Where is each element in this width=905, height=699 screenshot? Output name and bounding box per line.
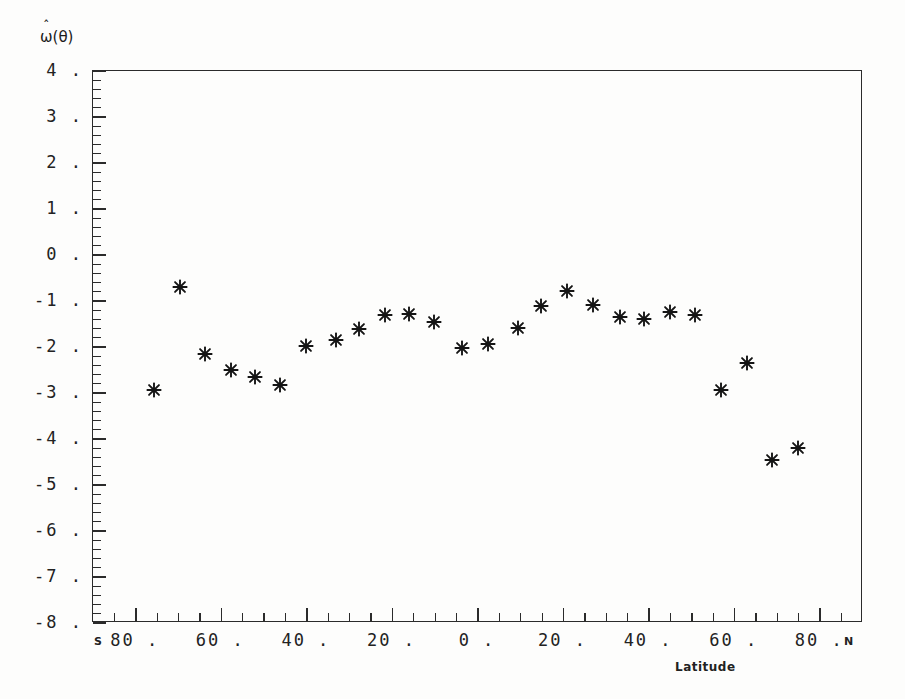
x-tick-minor bbox=[542, 613, 543, 621]
y-tick-minor bbox=[93, 273, 101, 274]
x-tick-label: 80 . bbox=[110, 630, 159, 650]
data-point-marker bbox=[480, 336, 495, 351]
y-tick-major bbox=[93, 392, 106, 394]
x-tick-label: 20 . bbox=[538, 630, 587, 650]
data-point-marker bbox=[765, 452, 780, 467]
data-point-marker bbox=[224, 362, 239, 377]
data-point-marker bbox=[510, 320, 525, 335]
y-tick-major bbox=[93, 70, 106, 72]
data-point-marker bbox=[790, 441, 805, 456]
x-tick-minor bbox=[178, 613, 179, 621]
x-tick-major bbox=[135, 608, 137, 621]
y-tick-minor bbox=[93, 227, 101, 228]
x-tick-major bbox=[392, 608, 394, 621]
x-tick-minor bbox=[841, 613, 842, 621]
data-point-marker bbox=[298, 339, 313, 354]
y-tick-minor bbox=[93, 604, 101, 605]
x-tick-minor bbox=[370, 613, 371, 621]
y-tick-minor bbox=[93, 80, 101, 81]
y-tick-minor bbox=[93, 126, 101, 127]
y-tick-minor bbox=[93, 457, 101, 458]
x-tick-minor bbox=[242, 613, 243, 621]
y-tick-minor bbox=[93, 153, 101, 154]
x-tick-minor bbox=[157, 613, 158, 621]
x-tick-minor bbox=[520, 613, 521, 621]
y-tick-minor bbox=[93, 595, 101, 596]
data-point-marker bbox=[688, 307, 703, 322]
data-point-marker bbox=[427, 315, 442, 330]
y-tick-major bbox=[93, 576, 106, 578]
x-tick-major bbox=[221, 608, 223, 621]
x-tick-label: 60 . bbox=[709, 630, 758, 650]
x-tick-label: 40 . bbox=[281, 630, 330, 650]
y-tick-minor bbox=[93, 521, 101, 522]
y-tick-minor bbox=[93, 466, 101, 467]
y-tick-minor bbox=[93, 172, 101, 173]
theta-argument: (θ) bbox=[53, 28, 74, 46]
y-tick-minor bbox=[93, 107, 101, 108]
y-tick-minor bbox=[93, 282, 101, 283]
data-point-marker bbox=[559, 283, 574, 298]
data-point-marker bbox=[247, 370, 262, 385]
y-tick-label: 2 . bbox=[46, 152, 83, 172]
x-tick-label: 80 . bbox=[795, 630, 844, 650]
y-tick-minor bbox=[93, 512, 101, 513]
omega-hat-glyph: ˆ ω bbox=[40, 28, 53, 46]
x-tick-minor bbox=[798, 613, 799, 621]
data-point-marker bbox=[636, 312, 651, 327]
y-tick-label: -6 . bbox=[34, 520, 83, 540]
data-point-marker bbox=[455, 341, 470, 356]
y-tick-minor bbox=[93, 98, 101, 99]
x-tick-minor bbox=[627, 613, 628, 621]
x-tick-minor bbox=[713, 613, 714, 621]
y-tick-minor bbox=[93, 144, 101, 145]
x-tick-major bbox=[734, 608, 736, 621]
y-tick-label: -3 . bbox=[34, 382, 83, 402]
y-tick-minor bbox=[93, 245, 101, 246]
y-tick-major bbox=[93, 300, 106, 302]
x-tick-minor bbox=[199, 613, 200, 621]
y-tick-label: -8 . bbox=[34, 612, 83, 632]
y-axis-label: ˆ ω (θ) bbox=[40, 28, 73, 46]
y-tick-minor bbox=[93, 448, 101, 449]
data-point-marker bbox=[613, 310, 628, 325]
y-tick-label: -5 . bbox=[34, 474, 83, 494]
y-tick-major bbox=[93, 346, 106, 348]
x-tick-minor bbox=[670, 613, 671, 621]
y-tick-minor bbox=[93, 328, 101, 329]
y-tick-minor bbox=[93, 89, 101, 90]
data-point-marker bbox=[739, 356, 754, 371]
x-tick-minor bbox=[263, 613, 264, 621]
x-tick-minor bbox=[349, 613, 350, 621]
x-tick-label: 20 . bbox=[367, 630, 416, 650]
y-tick-minor bbox=[93, 503, 101, 504]
y-tick-major bbox=[93, 254, 106, 256]
x-tick-minor bbox=[285, 613, 286, 621]
north-cap-label: N bbox=[844, 635, 853, 648]
data-point-marker bbox=[401, 307, 416, 322]
y-tick-minor bbox=[93, 365, 101, 366]
y-tick-minor bbox=[93, 236, 101, 237]
y-tick-label: 1 . bbox=[46, 198, 83, 218]
y-tick-minor bbox=[93, 411, 101, 412]
y-tick-major bbox=[93, 622, 106, 624]
y-tick-major bbox=[93, 162, 106, 164]
y-tick-label: 3 . bbox=[46, 106, 83, 126]
y-tick-minor bbox=[93, 264, 101, 265]
x-tick-minor bbox=[499, 613, 500, 621]
x-tick-major bbox=[648, 608, 650, 621]
y-tick-minor bbox=[93, 190, 101, 191]
data-point-marker bbox=[198, 346, 213, 361]
y-tick-major bbox=[93, 116, 106, 118]
data-point-marker bbox=[147, 382, 162, 397]
y-tick-label: -1 . bbox=[34, 290, 83, 310]
y-tick-label: 4 . bbox=[46, 60, 83, 80]
data-point-marker bbox=[172, 280, 187, 295]
y-tick-minor bbox=[93, 475, 101, 476]
y-tick-minor bbox=[93, 549, 101, 550]
x-tick-major bbox=[563, 608, 565, 621]
y-tick-minor bbox=[93, 181, 101, 182]
y-tick-minor bbox=[93, 135, 101, 136]
data-point-marker bbox=[273, 378, 288, 393]
y-tick-label: 0 . bbox=[46, 244, 83, 264]
